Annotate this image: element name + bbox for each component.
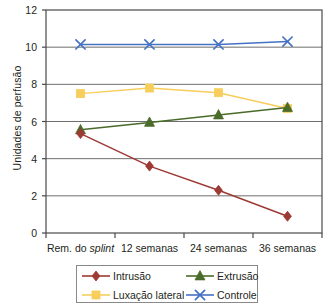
- x-axis-tick-label: 12 semanas: [115, 243, 184, 254]
- diamond-marker-icon: [81, 269, 111, 283]
- legend-label: Extrusão: [215, 270, 258, 282]
- square-marker-icon: [81, 288, 111, 302]
- legend-item[interactable]: Extrusão: [181, 266, 259, 285]
- x-axis-ticks: [46, 233, 322, 238]
- legend-item[interactable]: Intrusão: [77, 266, 181, 285]
- y-axis-tick-label: 8: [17, 79, 37, 90]
- legend-label: Luxação lateral: [111, 289, 184, 301]
- y-axis-tick-label: 6: [17, 117, 37, 128]
- legend-label: Controle: [215, 289, 257, 301]
- y-axis-tick-label: 0: [17, 228, 37, 239]
- y-axis-tick-label: 2: [17, 191, 37, 202]
- legend-item[interactable]: Luxação lateral: [77, 285, 181, 304]
- x-axis-tick-label: 24 semanas: [184, 243, 253, 254]
- series-luxa-o-lateral: [77, 84, 292, 112]
- series-layer: [76, 37, 293, 221]
- y-axis-tick-label: 12: [17, 5, 37, 16]
- legend-item[interactable]: Controle: [181, 285, 259, 304]
- chart-container: Unidades de perfusão 024681012 Rem. do s…: [0, 0, 334, 308]
- y-axis-tick-label: 4: [17, 154, 37, 165]
- y-axis-tick-label: 10: [17, 42, 37, 53]
- x-axis-tick-label: Rem. do splint: [46, 243, 115, 254]
- series-extrus-o: [76, 102, 293, 134]
- x-marker-icon: [185, 288, 215, 302]
- legend-label: Intrusão: [111, 270, 151, 282]
- series-intrus-o: [77, 129, 292, 222]
- plot-area: [0, 0, 334, 308]
- chart-legend: IntrusãoExtrusãoLuxação lateralControle: [76, 265, 258, 303]
- x-axis-tick-label: 36 semanas: [253, 243, 322, 254]
- gridlines: [46, 47, 322, 196]
- triangle-marker-icon: [185, 269, 215, 283]
